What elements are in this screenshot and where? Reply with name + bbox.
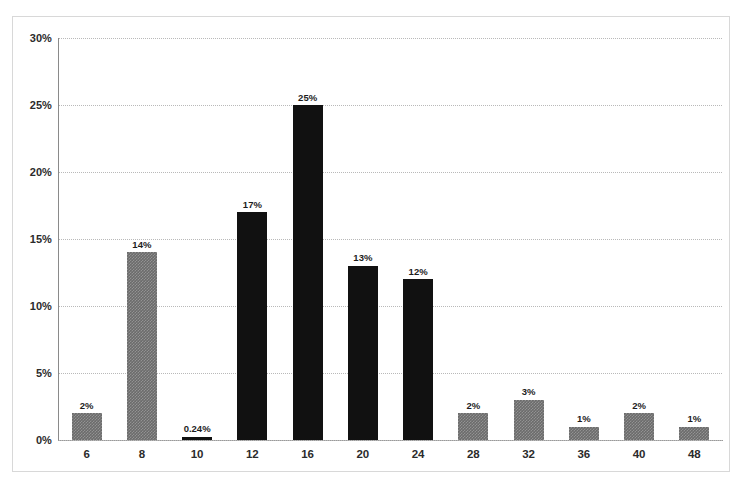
bar-value-label: 2%	[467, 401, 481, 411]
y-tick-label: 15%	[6, 234, 52, 245]
x-tick-label: 24	[412, 449, 425, 461]
bar[interactable]	[458, 413, 488, 440]
bar[interactable]	[182, 437, 212, 440]
gridline-20	[59, 172, 722, 173]
bar[interactable]	[679, 427, 709, 440]
bar[interactable]	[403, 279, 433, 440]
bar[interactable]	[514, 400, 544, 440]
x-tick-label: 6	[83, 449, 89, 461]
gridline-0	[59, 440, 722, 441]
bar-slot: 2%	[458, 38, 488, 440]
x-tick-label: 40	[633, 449, 646, 461]
y-tick-label: 25%	[6, 100, 52, 111]
bar[interactable]	[293, 105, 323, 440]
x-tick-label: 28	[467, 449, 480, 461]
bar-slot: 25%	[293, 38, 323, 440]
bar-chart: 0%5%10%15%20%25%30% 2%14%0.24%17%25%13%1…	[0, 0, 752, 490]
bar-slot: 14%	[127, 38, 157, 440]
bar-value-label: 25%	[298, 93, 317, 103]
gridline-10	[59, 306, 722, 307]
bar-slot: 12%	[403, 38, 433, 440]
bar[interactable]	[72, 413, 102, 440]
gridline-5	[59, 373, 722, 374]
bar-value-label: 2%	[632, 401, 646, 411]
gridline-25	[59, 105, 722, 106]
bar-value-label: 1%	[577, 414, 591, 424]
bar-slot: 1%	[569, 38, 599, 440]
bar-slot: 2%	[624, 38, 654, 440]
bar-value-label: 1%	[688, 414, 702, 424]
x-tick-label: 12	[246, 449, 259, 461]
y-tick-label: 20%	[6, 167, 52, 178]
x-tick-label: 8	[139, 449, 145, 461]
x-tick-label: 36	[577, 449, 590, 461]
bar[interactable]	[348, 266, 378, 440]
gridline-15	[59, 239, 722, 240]
bar-value-label: 13%	[353, 253, 372, 263]
bar[interactable]	[127, 252, 157, 440]
x-axis-tick-labels: 6810121620242832364048	[59, 449, 722, 469]
bar-slot: 0.24%	[182, 38, 212, 440]
bar-slot: 3%	[514, 38, 544, 440]
y-tick-label: 0%	[6, 435, 52, 446]
y-axis-tick-labels: 0%5%10%15%20%25%30%	[2, 38, 52, 440]
x-tick-label: 16	[301, 449, 314, 461]
y-tick-label: 30%	[6, 33, 52, 44]
bar-slot: 13%	[348, 38, 378, 440]
bar-value-label: 0.24%	[184, 424, 211, 434]
bar-value-label: 3%	[522, 387, 536, 397]
y-tick-label: 10%	[6, 301, 52, 312]
y-tick-label: 5%	[6, 368, 52, 379]
gridline-30	[59, 38, 722, 39]
x-tick-label: 32	[522, 449, 535, 461]
bar[interactable]	[624, 413, 654, 440]
bar-value-label: 14%	[132, 240, 151, 250]
bar-value-label: 17%	[243, 200, 262, 210]
bar-value-label: 12%	[409, 267, 428, 277]
bar-value-label: 2%	[80, 401, 94, 411]
x-tick-label: 20	[356, 449, 369, 461]
x-tick-label: 10	[191, 449, 204, 461]
bar-slot: 17%	[237, 38, 267, 440]
bar[interactable]	[237, 212, 267, 440]
x-tick-label: 48	[688, 449, 701, 461]
plot-area: 2%14%0.24%17%25%13%12%2%3%1%2%1%	[59, 38, 722, 440]
bar-slot: 1%	[679, 38, 709, 440]
bar-slot: 2%	[72, 38, 102, 440]
bar[interactable]	[569, 427, 599, 440]
